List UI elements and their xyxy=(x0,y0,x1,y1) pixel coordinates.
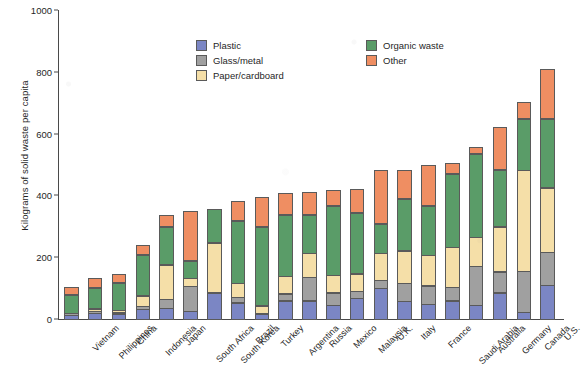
bar-segment-other xyxy=(350,189,365,213)
bar-segment-plastic xyxy=(302,301,317,320)
bar-canada[interactable] xyxy=(517,102,532,319)
bar-segment-plastic xyxy=(350,298,365,320)
bar-segment-plastic xyxy=(64,315,79,320)
bar-segment-plastic xyxy=(278,301,293,320)
x-category-label: Mexico xyxy=(351,323,378,350)
legend-item-other[interactable]: Other xyxy=(366,53,444,68)
bar-segment-organic-waste xyxy=(445,174,460,248)
bar-segment-other xyxy=(159,215,174,227)
bar-segment-glass-metal xyxy=(397,283,412,302)
bar-saudi-arabia[interactable] xyxy=(445,163,460,319)
bar-philippines[interactable] xyxy=(88,278,103,319)
bar-segment-glass-metal xyxy=(421,286,436,305)
bar-segment-paper-cardboard xyxy=(231,283,246,298)
bar-segment-glass-metal xyxy=(469,266,484,306)
bar-segment-organic-waste xyxy=(326,206,341,276)
bar-segment-paper-cardboard xyxy=(326,275,341,293)
bar-segment-other xyxy=(112,274,127,283)
bar-malaysia[interactable] xyxy=(350,189,365,319)
bar-segment-other xyxy=(302,192,317,215)
bar-segment-other xyxy=(278,193,293,215)
bar-segment-paper-cardboard xyxy=(374,253,389,281)
bar-segment-plastic xyxy=(231,303,246,320)
bar-segment-other xyxy=(64,287,79,295)
legend-item-label: Glass/metal xyxy=(213,55,263,66)
bar-segment-organic-waste xyxy=(517,119,532,171)
bar-segment-other xyxy=(88,278,103,288)
bar-south-africa[interactable] xyxy=(183,211,198,319)
bar-segment-organic-waste xyxy=(112,283,127,311)
bar-segment-organic-waste xyxy=(136,255,151,297)
bar-segment-organic-waste xyxy=(397,199,412,251)
x-category-label: China xyxy=(135,323,159,347)
bar-segment-other xyxy=(374,170,389,223)
bar-italy[interactable] xyxy=(397,170,412,319)
bar-segment-paper-cardboard xyxy=(278,276,293,294)
bar-u-s[interactable] xyxy=(540,69,555,319)
y-tick-label: 0 xyxy=(18,314,52,325)
bar-segment-plastic xyxy=(445,301,460,320)
legend-item-label: Plastic xyxy=(213,40,241,51)
bar-segment-organic-waste xyxy=(159,227,174,266)
bar-segment-organic-waste xyxy=(469,154,484,238)
bar-segment-paper-cardboard xyxy=(207,243,222,293)
bar-segment-other xyxy=(517,102,532,119)
bar-segment-paper-cardboard xyxy=(469,237,484,266)
bar-segment-paper-cardboard xyxy=(445,247,460,288)
bar-indonesia[interactable] xyxy=(136,245,151,319)
bar-segment-organic-waste xyxy=(421,206,436,255)
bar-segment-organic-waste xyxy=(350,213,365,275)
legend-item-glass-metal[interactable]: Glass/metal xyxy=(196,53,284,68)
bar-segment-plastic xyxy=(159,308,174,320)
bar-segment-paper-cardboard xyxy=(493,227,508,273)
legend-swatch-icon xyxy=(366,55,377,66)
bar-segment-glass-metal xyxy=(445,287,460,301)
bar-japan[interactable] xyxy=(159,215,174,319)
bar-segment-other xyxy=(231,201,246,221)
y-tick-label: 800 xyxy=(18,66,52,77)
bar-segment-glass-metal xyxy=(540,252,555,285)
bar-segment-plastic xyxy=(374,288,389,320)
bar-turkey[interactable] xyxy=(255,197,270,319)
bar-segment-plastic xyxy=(255,314,270,320)
bar-vietnam[interactable] xyxy=(64,287,79,319)
bar-segment-other xyxy=(493,127,508,170)
bar-mexico[interactable] xyxy=(326,190,341,319)
bar-segment-organic-waste xyxy=(64,295,79,314)
bar-segment-other xyxy=(445,163,460,174)
bar-segment-organic-waste xyxy=(183,261,198,279)
bar-segment-other xyxy=(136,245,151,255)
legend-column-2: Organic wasteOther xyxy=(366,38,444,68)
bar-segment-other xyxy=(421,165,436,206)
legend-swatch-icon xyxy=(196,55,207,66)
bar-segment-organic-waste xyxy=(278,215,293,277)
bar-france[interactable] xyxy=(421,165,436,319)
bar-segment-plastic xyxy=(397,301,412,320)
bar-segment-plastic xyxy=(88,313,103,320)
legend-item-label: Other xyxy=(383,55,407,66)
bar-segment-organic-waste xyxy=(207,209,222,244)
bar-segment-other xyxy=(255,197,270,227)
bar-australia[interactable] xyxy=(469,147,484,319)
legend-item-plastic[interactable]: Plastic xyxy=(196,38,284,53)
legend-item-paper-cardboard[interactable]: Paper/cardboard xyxy=(196,68,284,83)
legend-item-organic-waste[interactable]: Organic waste xyxy=(366,38,444,53)
bar-segment-plastic xyxy=(112,314,127,320)
bar-argentina[interactable] xyxy=(278,193,293,319)
bar-segment-plastic xyxy=(136,309,151,320)
bar-segment-paper-cardboard xyxy=(159,265,174,301)
bar-segment-organic-waste xyxy=(88,288,103,310)
legend-item-label: Organic waste xyxy=(383,40,444,51)
bar-u-k[interactable] xyxy=(374,170,389,319)
bar-segment-plastic xyxy=(183,311,198,320)
y-tick-label: 200 xyxy=(18,252,52,263)
bar-south-korea[interactable] xyxy=(207,209,222,319)
bar-russia[interactable] xyxy=(302,192,317,319)
bar-segment-plastic xyxy=(326,305,341,320)
bar-germany[interactable] xyxy=(493,127,508,319)
bar-china[interactable] xyxy=(112,274,127,319)
bar-segment-plastic xyxy=(493,293,508,320)
x-category-label: France xyxy=(446,323,473,350)
bar-brazil[interactable] xyxy=(231,201,246,319)
